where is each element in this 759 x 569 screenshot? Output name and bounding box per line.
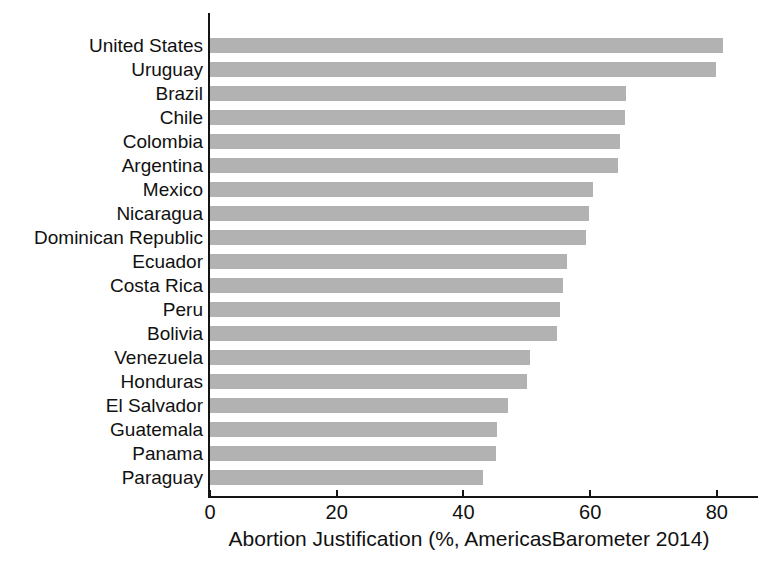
- bar-row: Bolivia: [0, 322, 759, 346]
- bar-row: El Salvador: [0, 394, 759, 418]
- bar-row: Venezuela: [0, 346, 759, 370]
- bar: [210, 230, 586, 245]
- bar-category-label: Dominican Republic: [0, 226, 203, 250]
- bar-category-label: Bolivia: [0, 322, 203, 346]
- bar-category-label: Brazil: [0, 82, 203, 106]
- bar: [210, 374, 527, 389]
- bar-row: Panama: [0, 442, 759, 466]
- bar-category-label: El Salvador: [0, 394, 203, 418]
- bar: [210, 302, 560, 317]
- x-axis-title: Abortion Justification (%, AmericasBarom…: [209, 527, 729, 551]
- bar: [210, 326, 557, 341]
- x-axis-tick-label: 60: [579, 501, 601, 523]
- bar-row: Colombia: [0, 130, 759, 154]
- bar-row: Mexico: [0, 178, 759, 202]
- bar-row: Dominican Republic: [0, 226, 759, 250]
- x-axis-line: [209, 496, 758, 498]
- bar-category-label: Ecuador: [0, 250, 203, 274]
- x-axis-tick-label: 20: [326, 501, 348, 523]
- bar-category-label: Peru: [0, 298, 203, 322]
- bar-category-label: Panama: [0, 442, 203, 466]
- x-axis-tick-label: 0: [204, 501, 215, 523]
- bar-row: Uruguay: [0, 58, 759, 82]
- bar-row: Paraguay: [0, 466, 759, 490]
- bar-category-label: Paraguay: [0, 466, 203, 490]
- bar-category-label: Mexico: [0, 178, 203, 202]
- x-axis-tick-mark: [209, 490, 211, 497]
- bar: [210, 254, 567, 269]
- bar-category-label: Colombia: [0, 130, 203, 154]
- bar: [210, 278, 563, 293]
- x-axis-tick-mark: [589, 490, 591, 497]
- chart-plot-area: United StatesUruguayBrazilChileColombiaA…: [0, 0, 759, 497]
- bar: [210, 134, 620, 149]
- bar-category-label: Uruguay: [0, 58, 203, 82]
- bar: [210, 86, 626, 101]
- x-axis-tick-mark: [462, 490, 464, 497]
- bar: [210, 62, 716, 77]
- x-axis-tick-mark: [336, 490, 338, 497]
- bar-category-label: Honduras: [0, 370, 203, 394]
- bar-row: Guatemala: [0, 418, 759, 442]
- abortion-justification-bar-chart: United StatesUruguayBrazilChileColombiaA…: [0, 0, 759, 569]
- bar-category-label: Argentina: [0, 154, 203, 178]
- bar-row: Honduras: [0, 370, 759, 394]
- bar-category-label: United States: [0, 34, 203, 58]
- bar: [210, 470, 483, 485]
- bar-category-label: Chile: [0, 106, 203, 130]
- bar-category-label: Guatemala: [0, 418, 203, 442]
- x-axis-tick-label: 40: [452, 501, 474, 523]
- bar-row: Chile: [0, 106, 759, 130]
- bar: [210, 350, 530, 365]
- bar-row: Costa Rica: [0, 274, 759, 298]
- bar: [210, 206, 589, 221]
- y-axis-line: [208, 13, 210, 498]
- bar: [210, 446, 496, 461]
- bar: [210, 158, 618, 173]
- bar-category-label: Costa Rica: [0, 274, 203, 298]
- x-axis-tick-label: 80: [706, 501, 728, 523]
- bar-row: United States: [0, 34, 759, 58]
- bar: [210, 182, 593, 197]
- x-axis-tick-mark: [716, 490, 718, 497]
- bar: [210, 110, 625, 125]
- bar: [210, 422, 497, 437]
- bar-category-label: Nicaragua: [0, 202, 203, 226]
- bar: [210, 38, 723, 53]
- bar-row: Peru: [0, 298, 759, 322]
- bar-row: Ecuador: [0, 250, 759, 274]
- bar-row: Argentina: [0, 154, 759, 178]
- bar-row: Nicaragua: [0, 202, 759, 226]
- bar-category-label: Venezuela: [0, 346, 203, 370]
- bar: [210, 398, 508, 413]
- bar-row: Brazil: [0, 82, 759, 106]
